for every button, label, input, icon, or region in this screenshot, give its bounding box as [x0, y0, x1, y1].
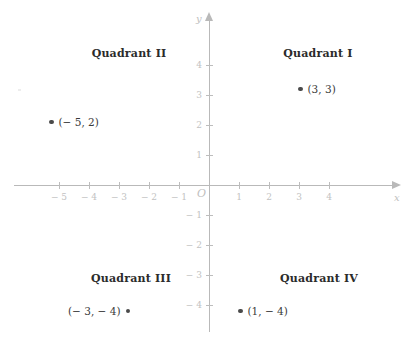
x-axis-tick-label: − 2 [141, 192, 157, 202]
quadrant-label-ii: Quadrant II [92, 47, 167, 60]
quadrant-label-iii: Quadrant III [91, 272, 171, 285]
x-axis-tick [269, 182, 270, 189]
x-axis-tick-label: 4 [326, 192, 332, 202]
point-marker-dot [126, 309, 131, 314]
point-label: (3, 3) [308, 83, 336, 95]
y-axis-tick [206, 95, 213, 96]
x-axis-line [14, 185, 396, 186]
point-marker-dot [298, 87, 303, 92]
y-axis-tick [206, 275, 213, 276]
x-axis-tick [329, 182, 330, 189]
x-axis-tick-label: − 3 [111, 192, 127, 202]
y-axis-line [209, 14, 210, 332]
quadrant-label-iv: Quadrant IV [280, 272, 358, 285]
y-axis-tick-label: − 3 [178, 270, 202, 280]
origin-label: O [197, 188, 206, 200]
y-axis-tick-label: − 1 [178, 210, 202, 220]
coordinate-plane-figure: x y O − 5− 4− 3− 2− 112344321− 1− 2− 3− … [0, 0, 414, 342]
x-axis-tick [89, 182, 90, 189]
y-axis-tick [206, 125, 213, 126]
y-axis-tick [206, 155, 213, 156]
x-axis-arrow-icon [392, 181, 401, 189]
y-axis-label: y [196, 13, 202, 24]
y-axis-tick [206, 65, 213, 66]
x-axis-tick-label: 3 [296, 192, 302, 202]
y-axis-arrow-icon [205, 12, 213, 21]
y-axis-tick [206, 245, 213, 246]
x-axis-tick-label: 2 [266, 192, 272, 202]
data-point-3-3: (3, 3) [298, 83, 336, 95]
y-axis-tick-label: 3 [178, 90, 202, 100]
y-axis-tick-label: 2 [178, 120, 202, 130]
image-artifact-speck [18, 89, 21, 91]
x-axis-tick [119, 182, 120, 189]
data-point-neg5-2: (− 5, 2) [49, 116, 99, 128]
y-axis-tick-label: 4 [178, 60, 202, 70]
point-label: (− 5, 2) [59, 116, 99, 128]
y-axis-tick-label: − 4 [178, 300, 202, 310]
x-axis-tick-label: − 5 [51, 192, 67, 202]
x-axis-label: x [394, 192, 400, 203]
x-axis-tick-label: − 4 [81, 192, 97, 202]
y-axis-tick [206, 215, 213, 216]
y-axis-tick-label: 1 [178, 150, 202, 160]
point-label: (1, − 4) [248, 305, 288, 317]
x-axis-tick [179, 182, 180, 189]
x-axis-tick [149, 182, 150, 189]
point-marker-dot [238, 309, 243, 314]
y-axis-tick [206, 305, 213, 306]
point-label: (− 3, − 4) [68, 305, 121, 317]
x-axis-tick [239, 182, 240, 189]
x-axis-tick-label: 1 [236, 192, 242, 202]
x-axis-tick-label: − 1 [171, 192, 187, 202]
quadrant-label-i: Quadrant I [283, 47, 352, 60]
data-point-1-neg4: (1, − 4) [238, 305, 288, 317]
x-axis-tick [299, 182, 300, 189]
point-marker-dot [49, 120, 54, 125]
data-point-neg3-neg4: (− 3, − 4) [68, 305, 130, 317]
y-axis-tick-label: − 2 [178, 240, 202, 250]
x-axis-tick [59, 182, 60, 189]
